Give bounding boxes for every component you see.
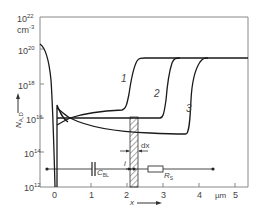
svg-text:1022: 1022 xyxy=(17,13,34,24)
hatched-strip-dx xyxy=(130,117,138,187)
x-tick-labels: 0 1 2 3 4 µm 5 xyxy=(52,190,238,200)
y-ticks xyxy=(40,49,44,152)
svg-text:3: 3 xyxy=(161,190,166,200)
svg-text:RS: RS xyxy=(164,171,174,181)
x-axis-title: x xyxy=(129,198,162,207)
svg-text:1: 1 xyxy=(121,73,127,84)
arrow-up-icon xyxy=(16,93,20,99)
svg-text:3: 3 xyxy=(186,103,192,114)
curve-2 xyxy=(57,58,180,118)
curve-spike xyxy=(57,105,68,187)
x-ticks xyxy=(91,183,235,187)
svg-text:4: 4 xyxy=(197,190,202,200)
svg-text:1012: 1012 xyxy=(24,182,41,193)
svg-text:0: 0 xyxy=(52,190,57,200)
curves xyxy=(40,44,248,187)
svg-text:NA,D: NA,D xyxy=(14,112,24,128)
svg-text:2: 2 xyxy=(124,190,129,200)
y-tick-labels: 1022 cm-3 1020 1018 1016 1014 1012 xyxy=(17,13,43,193)
svg-text:dx: dx xyxy=(141,141,149,150)
svg-text:5: 5 xyxy=(233,190,238,200)
y-axis-title: NA,D xyxy=(14,93,24,128)
arrow-right-icon xyxy=(156,201,162,205)
svg-text:2: 2 xyxy=(153,88,160,99)
plot-frame xyxy=(40,17,248,187)
doping-profile-chart: 1022 cm-3 1020 1018 1016 1014 1012 NA,D … xyxy=(0,0,260,214)
terminal-right-icon xyxy=(211,167,214,170)
curve-1 xyxy=(57,58,248,125)
svg-text:x: x xyxy=(129,198,135,207)
svg-text:i: i xyxy=(124,159,126,168)
svg-text:1: 1 xyxy=(89,190,94,200)
svg-text:1018: 1018 xyxy=(18,80,35,91)
junction-dot-icon xyxy=(132,167,135,170)
terminal-left-icon xyxy=(45,167,48,170)
svg-text:1016: 1016 xyxy=(26,114,43,125)
svg-text:1014: 1014 xyxy=(24,148,41,159)
resistor-icon xyxy=(148,166,163,172)
svg-text:µm: µm xyxy=(215,191,227,200)
svg-text:1020: 1020 xyxy=(18,45,35,56)
y-unit-label: cm-3 xyxy=(17,24,35,35)
